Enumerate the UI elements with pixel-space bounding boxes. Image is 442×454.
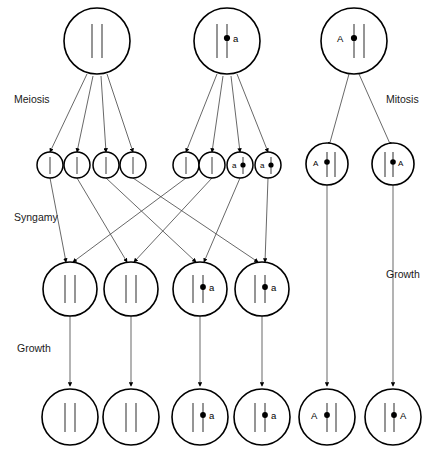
mitosis-daughter-cell-2[interactable]: A [372,143,414,185]
centromere-dot [240,162,245,167]
adult-cell-2[interactable] [103,389,159,445]
gamete-cell-6[interactable] [199,152,225,178]
mitosis-connectors [329,74,391,146]
centromere-dot [324,412,330,418]
diagram-canvas: a A [0,0,442,454]
adult-cell-6[interactable]: A [365,389,421,445]
allele-label-adult-4: a [271,410,277,421]
allele-label-adult-3: a [209,410,215,421]
stage-label-growth-right: Growth [386,268,420,280]
centromere-dot [390,159,396,165]
allele-label-zygote-3: a [209,282,215,293]
gamete-cell-8[interactable]: a [255,152,281,178]
adult-cell-5[interactable]: A [299,389,355,445]
gamete-cell-7[interactable]: a [227,152,253,178]
allele-label-parent-2: a [233,33,239,44]
gamete-cell-3[interactable] [93,152,119,178]
parent-cell-3[interactable]: A [321,8,387,74]
centromere-dot [262,284,268,290]
gamete-cell-4[interactable] [120,152,146,178]
life-cycle-diagram: a A [0,0,442,454]
centromere-dot [391,412,397,418]
adult-cell-4[interactable]: a [234,389,290,445]
stage-label-meiosis: Meiosis [14,93,50,105]
allele-label-parent-3: A [337,33,344,44]
growth-connectors-left [70,316,262,386]
centromere-dot [268,162,273,167]
centromere-dot [200,284,206,290]
centromere-dot [224,35,230,41]
meiosis-connectors-middle [186,74,268,152]
zygote-cell-4[interactable]: a [235,262,289,316]
allele-label-adult-6: A [400,410,407,421]
centromere-dot [200,412,206,418]
zygote-cell-1[interactable] [43,262,97,316]
stage-label-mitosis: Mitosis [386,93,419,105]
meiosis-connectors-left [50,74,133,152]
zygote-cell-2[interactable] [104,262,158,316]
gamete-cell-1[interactable] [37,152,63,178]
adult-cell-3[interactable]: a [172,389,228,445]
allele-label-mitosis-daughter-2: A [398,159,404,168]
adult-cell-1[interactable] [42,389,98,445]
allele-label-gamete-8: a [260,161,265,170]
stage-label-syngamy: Syngamy [14,211,59,223]
parent-cell-2[interactable]: a [194,8,260,74]
centromere-dot [351,35,357,41]
growth-connectors-right [327,184,393,386]
centromere-dot [324,159,330,165]
gamete-cell-5[interactable] [173,152,199,178]
allele-label-mitosis-daughter-1: A [313,159,319,168]
allele-label-gamete-7: a [232,161,237,170]
centromere-dot [262,412,268,418]
mitosis-daughter-cell-1[interactable]: A [306,143,348,185]
gamete-cell-2[interactable] [64,152,90,178]
parent-cell-1[interactable] [64,8,130,74]
syngamy-connectors [50,178,268,262]
allele-label-adult-5: A [311,410,318,421]
stage-label-growth-left: Growth [17,342,51,354]
zygote-cell-3[interactable]: a [173,262,227,316]
allele-label-zygote-4: a [271,282,277,293]
